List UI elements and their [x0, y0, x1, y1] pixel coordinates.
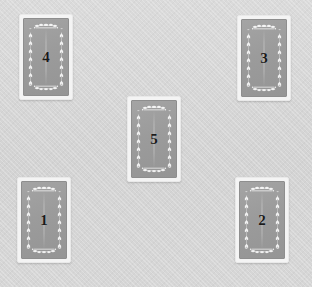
- card-back-design: 5: [131, 100, 177, 178]
- card-number-label: 3: [242, 20, 286, 96]
- card-table-surface: 4: [0, 0, 312, 287]
- card-back-design: 4: [23, 18, 69, 96]
- playing-card-2[interactable]: 2: [235, 177, 289, 263]
- card-back-design: 1: [21, 181, 67, 259]
- card-number-label: 4: [24, 19, 68, 95]
- card-back-design: 3: [241, 19, 287, 97]
- card-number-label: 2: [240, 182, 284, 258]
- playing-card-1[interactable]: 1: [17, 177, 71, 263]
- card-number-label: 1: [22, 182, 66, 258]
- playing-card-4[interactable]: 4: [19, 14, 73, 100]
- card-number-label: 5: [132, 101, 176, 177]
- playing-card-3[interactable]: 3: [237, 15, 291, 101]
- card-back-design: 2: [239, 181, 285, 259]
- playing-card-5[interactable]: 5: [127, 96, 181, 182]
